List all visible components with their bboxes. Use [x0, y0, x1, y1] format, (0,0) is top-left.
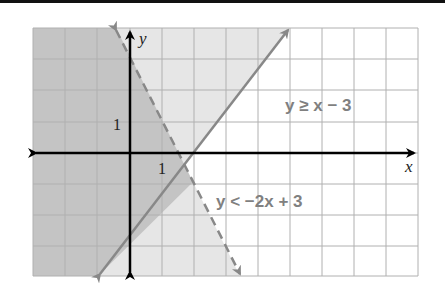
x-axis-label: x — [404, 157, 413, 176]
inequality-label-2: y < −2x + 3 — [216, 192, 303, 211]
inequality-graph: y x 1 1 y ≥ x − 3 y < −2x + 3 — [0, 0, 445, 302]
x-tick-label: 1 — [158, 160, 166, 177]
y-axis-label: y — [137, 29, 147, 48]
y-tick-label: 1 — [113, 116, 121, 133]
inequality-label-1: y ≥ x − 3 — [285, 96, 352, 115]
